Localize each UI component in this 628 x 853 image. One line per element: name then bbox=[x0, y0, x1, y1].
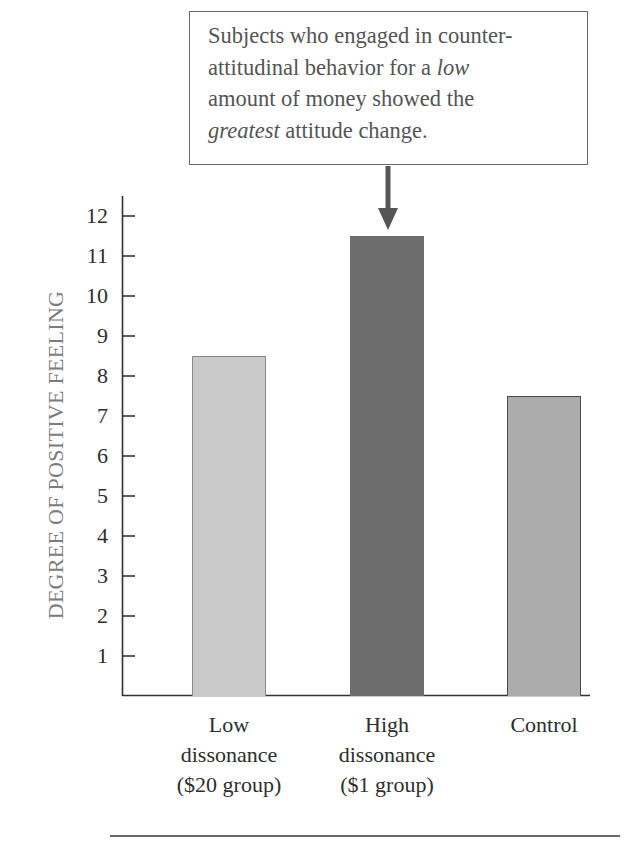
y-tick-label: 8 bbox=[68, 365, 108, 387]
x-category-label: Highdissonance($1 group) bbox=[307, 710, 467, 800]
bar bbox=[350, 236, 424, 696]
bar bbox=[507, 396, 581, 696]
y-tick-label: 5 bbox=[68, 485, 108, 507]
x-category-label: Control bbox=[464, 710, 624, 740]
bar bbox=[192, 356, 266, 696]
y-tick-label: 12 bbox=[68, 205, 108, 227]
y-tick-label: 6 bbox=[68, 445, 108, 467]
y-tick-label: 11 bbox=[68, 245, 108, 267]
bottom-rule bbox=[110, 835, 620, 837]
y-tick-label: 7 bbox=[68, 405, 108, 427]
y-tick-label: 10 bbox=[68, 285, 108, 307]
y-tick-label: 1 bbox=[68, 645, 108, 667]
y-tick-label: 2 bbox=[68, 605, 108, 627]
x-category-label: Lowdissonance($20 group) bbox=[149, 710, 309, 800]
y-tick-label: 9 bbox=[68, 325, 108, 347]
y-tick-label: 4 bbox=[68, 525, 108, 547]
y-tick-label: 3 bbox=[68, 565, 108, 587]
